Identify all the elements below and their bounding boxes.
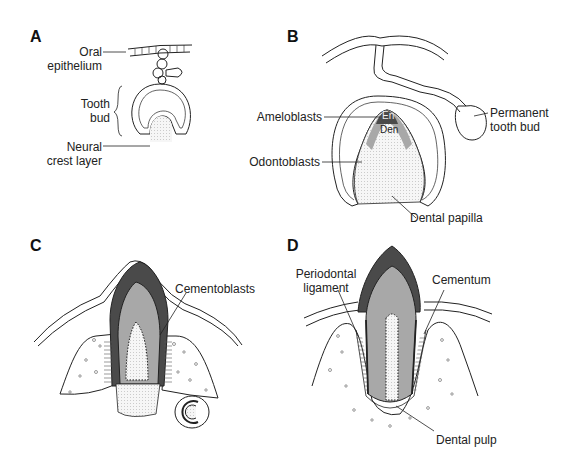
label-dental-pulp: Dental pulp — [436, 433, 497, 447]
label-permanent-tooth-bud: Permanent tooth bud — [490, 106, 549, 134]
panel-label-a: A — [30, 28, 42, 46]
panel-label-c: C — [30, 237, 42, 255]
label-dental-papilla: Dental papilla — [410, 211, 483, 225]
label-tooth-bud: Tooth bud — [70, 97, 110, 125]
label-tooth-bud-line2: bud — [70, 111, 110, 125]
label-oral-epithelium-line1: Oral — [46, 45, 102, 59]
label-neural-crest-layer: Neural crest layer — [36, 140, 102, 168]
label-periodontal-line1: Periodontal — [294, 267, 358, 281]
label-odontoblasts: Odontoblasts — [240, 155, 320, 169]
label-permanent-line1: Permanent — [490, 106, 549, 120]
label-periodontal-line2: ligament — [294, 281, 358, 295]
label-enamel: En — [382, 110, 394, 121]
panel-label-d: D — [287, 237, 299, 255]
label-neural-crest-line2: crest layer — [36, 154, 102, 168]
label-permanent-line2: tooth bud — [490, 120, 549, 134]
panel-a-drawing — [128, 45, 192, 142]
label-oral-epithelium: Oral epithelium — [46, 45, 102, 73]
label-neural-crest-line1: Neural — [36, 140, 102, 154]
label-tooth-bud-line1: Tooth — [70, 97, 110, 111]
label-cementum: Cementum — [432, 273, 491, 287]
panel-label-b: B — [287, 28, 299, 46]
label-periodontal-ligament: Periodontal ligament — [294, 267, 358, 295]
label-cementoblasts: Cementoblasts — [175, 282, 255, 296]
label-dentin: Den — [380, 124, 398, 135]
label-oral-epithelium-line2: epithelium — [46, 59, 102, 73]
label-ameloblasts: Ameloblasts — [240, 110, 322, 124]
